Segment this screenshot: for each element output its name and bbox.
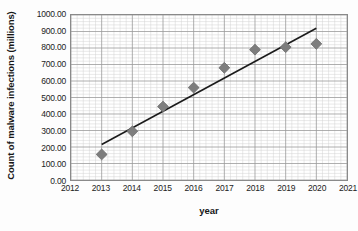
plot-area — [70, 14, 348, 181]
y-tick-label: 400.00 — [41, 109, 66, 119]
y-axis-title-label: Count of malware infections (millions) — [5, 11, 16, 179]
x-tick-label: 2016 — [184, 183, 202, 193]
y-tick-label: 700.00 — [41, 59, 66, 69]
y-tick-label: 100.00 — [41, 159, 66, 169]
x-tick-label: 2019 — [277, 183, 295, 193]
malware-infections-chart: Count of malware infections (millions) 0… — [0, 0, 358, 231]
y-tick-label: 300.00 — [41, 126, 66, 136]
x-tick-label: 2018 — [246, 183, 264, 193]
x-tick-label: 2015 — [154, 183, 172, 193]
y-axis-tick-labels: 0.00100.00200.00300.00400.00500.00600.00… — [18, 0, 68, 190]
x-axis-tick-labels: 2012201320142015201620172018201920202021 — [70, 183, 348, 199]
x-tick-label: 2013 — [92, 183, 110, 193]
x-tick-label: 2017 — [215, 183, 233, 193]
data-series-layer — [71, 15, 347, 180]
x-tick-label: 2012 — [61, 183, 79, 193]
y-tick-label: 900.00 — [41, 26, 66, 36]
y-tick-label: 800.00 — [41, 42, 66, 52]
x-tick-label: 2020 — [308, 183, 326, 193]
y-tick-label: 200.00 — [41, 143, 66, 153]
y-tick-label: 600.00 — [41, 76, 66, 86]
x-tick-label: 2021 — [339, 183, 357, 193]
y-tick-label: 1000.00 — [37, 9, 66, 19]
y-axis-title: Count of malware infections (millions) — [0, 0, 20, 190]
x-tick-label: 2014 — [123, 183, 141, 193]
x-axis-title: year — [70, 205, 348, 216]
y-tick-label: 500.00 — [41, 93, 66, 103]
